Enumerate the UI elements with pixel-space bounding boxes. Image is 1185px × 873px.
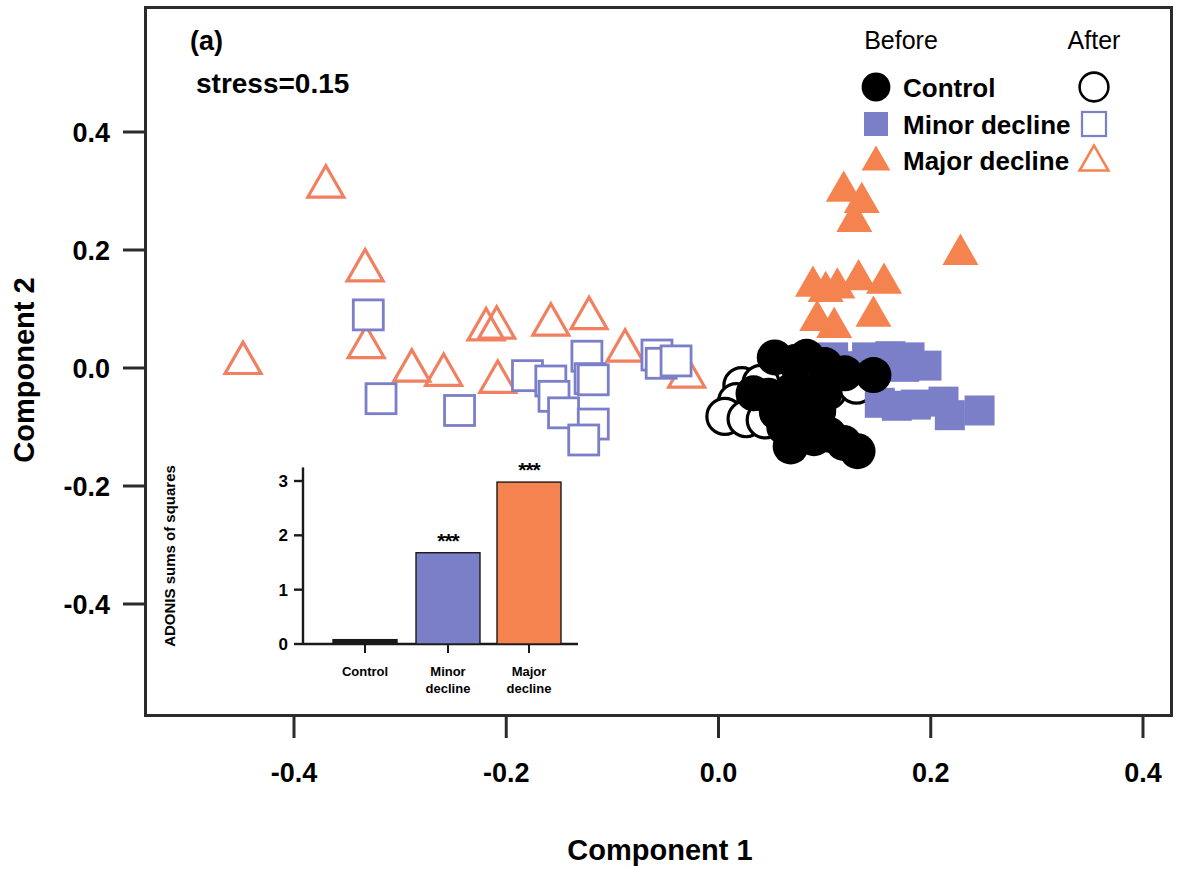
x-tick-label: -0.4 [271, 758, 318, 788]
inset-y-tick-label: 1 [279, 581, 288, 600]
inset-category-label: Control [342, 664, 388, 679]
inset-category-label: decline [507, 681, 552, 696]
y-axis-title: Component 2 [8, 277, 40, 462]
y-tick-label: -0.4 [63, 590, 110, 620]
data-point [840, 433, 876, 469]
legend-header-after: After [1068, 26, 1121, 54]
stress-annotation: stress=0.15 [196, 68, 349, 99]
data-point [549, 398, 579, 428]
data-point [935, 400, 965, 430]
inset-y-tick-label: 3 [279, 472, 288, 491]
nmds-figure: -0.4-0.20.00.20.4-0.4-0.20.00.20.4 Compo… [0, 0, 1185, 873]
x-tick-label: 0.4 [1124, 758, 1162, 788]
data-point [445, 395, 475, 425]
y-tick-label: -0.2 [63, 472, 110, 502]
legend-item-label: Minor decline [903, 110, 1071, 140]
inset-bar [333, 640, 397, 644]
data-point [578, 365, 608, 395]
data-point [912, 351, 942, 381]
data-point [569, 425, 599, 455]
inset-bar [497, 482, 561, 644]
x-tick-label: 0.2 [912, 758, 950, 788]
inset-category-label: Minor [430, 664, 465, 679]
y-tick-label: 0.2 [72, 236, 110, 266]
data-point [773, 428, 809, 464]
data-point [855, 357, 891, 393]
inset-y-tick-label: 0 [279, 635, 288, 654]
plot-canvas: -0.4-0.20.00.20.4-0.4-0.20.00.20.4 Compo… [0, 0, 1185, 873]
legend-symbol-before [862, 73, 891, 102]
data-point [965, 395, 995, 425]
inset-y-axis-title: ADONIS sums of squares [161, 465, 178, 647]
legend-header-before: Before [864, 26, 938, 54]
legend-symbol-after [1080, 73, 1109, 102]
x-tick-label: -0.2 [483, 758, 530, 788]
data-point [661, 346, 691, 376]
panel-label: (a) [190, 26, 223, 56]
legend-item-label: Control [903, 73, 995, 103]
significance-marker: *** [437, 529, 460, 552]
inset-category-label: decline [426, 681, 471, 696]
inset-category-label: Major [512, 664, 547, 679]
x-axis-title: Component 1 [567, 834, 752, 866]
data-point [366, 384, 396, 414]
data-point [901, 390, 931, 420]
x-tick-label: 0.0 [700, 758, 738, 788]
data-point [353, 300, 383, 330]
legend-symbol-before [864, 112, 888, 136]
y-tick-label: 0.0 [72, 354, 110, 384]
inset-bar [416, 553, 480, 644]
legend-item-label: Major decline [903, 146, 1069, 176]
significance-marker: *** [518, 458, 541, 481]
y-tick-label: 0.4 [72, 118, 110, 148]
legend-symbol-after [1082, 112, 1106, 136]
inset-y-tick-label: 2 [279, 526, 288, 545]
